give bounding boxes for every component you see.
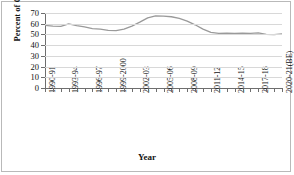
x-tick-mark bbox=[282, 89, 283, 92]
x-tick-mark bbox=[243, 89, 244, 92]
gridline bbox=[45, 13, 282, 14]
x-tick-mark bbox=[156, 89, 157, 92]
x-tick-mark bbox=[85, 89, 86, 92]
x-tick-mark bbox=[69, 89, 70, 92]
x-axis-title: Year bbox=[0, 152, 294, 162]
x-tick-mark bbox=[171, 89, 172, 92]
gridline bbox=[45, 34, 282, 35]
y-tick-label: 40 bbox=[19, 41, 39, 49]
y-tick-label: 30 bbox=[19, 52, 39, 60]
x-tick-mark bbox=[108, 89, 109, 92]
x-tick-mark bbox=[211, 89, 212, 92]
x-tick-mark bbox=[195, 89, 196, 92]
x-tick-mark bbox=[124, 89, 125, 92]
x-tick-mark bbox=[92, 89, 93, 92]
x-tick-mark bbox=[179, 89, 180, 92]
x-tick-mark bbox=[227, 89, 228, 92]
y-tick-label: 50 bbox=[19, 30, 39, 38]
y-tick-label: 20 bbox=[19, 63, 39, 71]
x-tick-mark bbox=[235, 89, 236, 92]
gridline bbox=[45, 67, 282, 68]
x-tick-mark bbox=[203, 89, 204, 92]
x-tick-mark bbox=[164, 89, 165, 92]
x-tick-mark bbox=[140, 89, 141, 92]
gridline bbox=[45, 45, 282, 46]
gridline bbox=[45, 77, 282, 78]
gridline bbox=[45, 24, 282, 25]
x-tick-mark bbox=[45, 89, 46, 92]
y-tick-label: 0 bbox=[19, 84, 39, 92]
x-tick-mark bbox=[219, 89, 220, 92]
x-tick-mark bbox=[258, 89, 259, 92]
y-tick-label: 60 bbox=[19, 20, 39, 28]
x-tick-mark bbox=[100, 89, 101, 92]
x-tick-mark bbox=[266, 89, 267, 92]
y-tick-label: 10 bbox=[19, 73, 39, 81]
x-tick-mark bbox=[148, 89, 149, 92]
x-tick-mark bbox=[61, 89, 62, 92]
x-tick-mark bbox=[77, 89, 78, 92]
x-tick-mark bbox=[187, 89, 188, 92]
x-tick-mark bbox=[116, 89, 117, 92]
plot-area bbox=[45, 13, 282, 88]
y-tick-label: 70 bbox=[19, 9, 39, 17]
gridline bbox=[45, 56, 282, 57]
x-tick-mark bbox=[132, 89, 133, 92]
x-tick-mark bbox=[53, 89, 54, 92]
x-tick-mark bbox=[274, 89, 275, 92]
chart-container: Percent of GDP 010203040506070 1990-9119… bbox=[0, 0, 294, 175]
x-tick-mark bbox=[250, 89, 251, 92]
x-tick-label: 2020-21(BE) bbox=[286, 51, 294, 93]
series-line-debt-percent-gdp bbox=[45, 16, 282, 35]
